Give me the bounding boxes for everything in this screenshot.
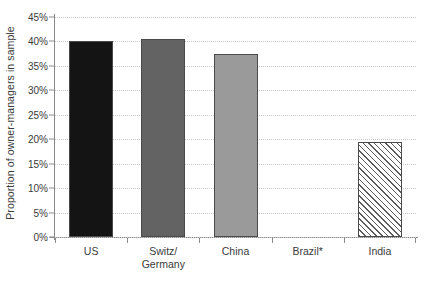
y-axis-tick-label: 15% bbox=[28, 158, 48, 169]
gridline bbox=[55, 17, 416, 18]
y-axis-tick-label: 30% bbox=[28, 85, 48, 96]
y-axis-tick-label: 45% bbox=[28, 12, 48, 23]
bar bbox=[141, 39, 185, 237]
x-axis-tick-mark bbox=[199, 238, 200, 243]
y-axis-tick-label: 5% bbox=[34, 207, 48, 218]
x-axis-tick-mark bbox=[272, 238, 273, 243]
bar bbox=[358, 142, 402, 237]
x-axis-tick-marks bbox=[55, 238, 416, 244]
bar-chart: Proportion of owner-managers in sample 0… bbox=[0, 0, 425, 284]
x-axis-tick-mark bbox=[344, 238, 345, 243]
y-axis-tick-label: 40% bbox=[28, 36, 48, 47]
x-axis-tick-mark bbox=[127, 238, 128, 243]
y-axis-tick-label: 0% bbox=[34, 232, 48, 243]
x-axis-tick-mark bbox=[55, 238, 56, 243]
y-axis-title-text: Proportion of owner-managers in sample bbox=[4, 26, 16, 219]
x-axis-tick-label: China bbox=[222, 245, 249, 258]
y-axis-tick-label: 10% bbox=[28, 183, 48, 194]
x-axis-tick-label: Brazil* bbox=[293, 245, 323, 258]
x-axis-tick-labels: USSwitz/ GermanyChinaBrazil*India bbox=[55, 245, 416, 283]
y-axis-title: Proportion of owner-managers in sample bbox=[0, 0, 20, 246]
x-axis-tick-mark bbox=[415, 238, 416, 243]
x-axis-tick-label: Switz/ Germany bbox=[142, 245, 185, 270]
bar bbox=[69, 41, 113, 237]
y-axis-tick-label: 20% bbox=[28, 134, 48, 145]
plot-area bbox=[55, 17, 416, 237]
x-axis-tick-label: US bbox=[84, 245, 99, 258]
x-axis-tick-label: India bbox=[369, 245, 392, 258]
bar bbox=[214, 54, 258, 237]
y-axis-tick-label: 35% bbox=[28, 60, 48, 71]
y-axis-tick-label: 25% bbox=[28, 109, 48, 120]
y-axis-tick-labels: 0%5%10%15%20%25%30%35%40%45% bbox=[18, 11, 48, 239]
